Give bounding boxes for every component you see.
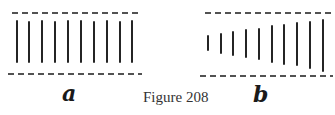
figure-caption: Figure 208 <box>143 90 208 105</box>
panel-a <box>8 13 142 74</box>
panel-b-label: b <box>253 83 268 105</box>
panel-a-label: a <box>62 82 76 104</box>
panel-b <box>200 13 333 76</box>
